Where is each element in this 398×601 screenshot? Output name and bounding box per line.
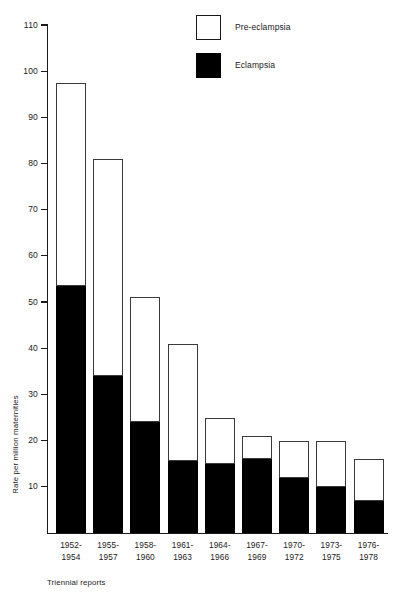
stacked-bar-chart: Pre-eclampsia Eclampsia 1020304050607080… [0, 0, 398, 601]
bar-segment-pre-eclampsia-1964-1966 [205, 418, 235, 464]
bar-segment-eclampsia-1961-1963 [168, 461, 198, 533]
bar-segment-pre-eclampsia-1961-1963 [168, 344, 198, 462]
legend-label-eclampsia: Eclampsia [235, 60, 275, 70]
x-axis-title: Triennial reports [47, 578, 106, 587]
bar-1958-1960 [130, 297, 160, 533]
y-axis-tick-30 [41, 394, 47, 395]
filled-square-swatch-icon [196, 53, 221, 78]
bar-1976-1978 [354, 459, 384, 533]
x-axis-label-1976-1978: 1976-1978 [346, 540, 392, 563]
y-axis-tick-label-50: 50 [4, 298, 38, 307]
y-axis-tick-60 [41, 255, 47, 256]
bar-1961-1963 [168, 344, 198, 533]
bar-segment-pre-eclampsia-1958-1960 [130, 297, 160, 422]
y-axis-tick-label-30: 30 [4, 390, 38, 399]
x-axis-label-line-2: 1978 [346, 552, 392, 564]
bar-1967-1969 [242, 436, 272, 533]
y-axis-tick-label-20: 20 [4, 436, 38, 445]
legend-label-pre-eclampsia: Pre-eclampsia [235, 22, 291, 32]
y-axis-tick-50 [41, 301, 47, 302]
open-square-swatch-icon [196, 15, 221, 40]
x-axis-label-line-1: 1976- [346, 540, 392, 552]
y-axis-tick-20 [41, 440, 47, 441]
legend-item-eclampsia: Eclampsia [196, 52, 386, 78]
y-axis-line [47, 24, 48, 534]
bar-segment-pre-eclampsia-1970-1972 [279, 441, 309, 478]
bar-1973-1975 [316, 441, 346, 533]
bar-1952-1954 [56, 83, 86, 533]
y-axis-tick-100 [41, 71, 47, 72]
bar-1964-1966 [205, 418, 235, 533]
bar-segment-pre-eclampsia-1973-1975 [316, 441, 346, 487]
bar-segment-pre-eclampsia-1955-1957 [93, 159, 123, 376]
y-axis-tick-label-60: 60 [4, 251, 38, 260]
bar-1970-1972 [279, 441, 309, 533]
chart-legend: Pre-eclampsia Eclampsia [196, 14, 386, 90]
bar-segment-eclampsia-1955-1957 [93, 376, 123, 533]
bar-segment-eclampsia-1967-1969 [242, 459, 272, 533]
bar-segment-eclampsia-1952-1954 [56, 286, 86, 533]
y-axis-tick-label-80: 80 [4, 159, 38, 168]
y-axis-tick-70 [41, 209, 47, 210]
bar-segment-pre-eclampsia-1952-1954 [56, 83, 86, 286]
y-axis-title: Rate per million maternities [11, 370, 20, 520]
y-axis-tick-10 [41, 486, 47, 487]
y-axis-tick-40 [41, 348, 47, 349]
legend-item-pre-eclampsia: Pre-eclampsia [196, 14, 386, 40]
y-axis-tick-label-10: 10 [4, 482, 38, 491]
y-axis-tick-label-70: 70 [4, 205, 38, 214]
bar-segment-pre-eclampsia-1967-1969 [242, 436, 272, 459]
y-axis-tick-90 [41, 117, 47, 118]
bar-segment-eclampsia-1970-1972 [279, 478, 309, 533]
bar-segment-eclampsia-1976-1978 [354, 501, 384, 533]
bar-segment-eclampsia-1973-1975 [316, 487, 346, 533]
y-axis-tick-label-110: 110 [4, 21, 38, 30]
y-axis-tick-label-100: 100 [4, 67, 38, 76]
y-axis-tick-80 [41, 163, 47, 164]
bar-segment-pre-eclampsia-1976-1978 [354, 459, 384, 501]
y-axis-tick-label-40: 40 [4, 344, 38, 353]
y-axis-tick-110 [41, 24, 47, 25]
bar-1955-1957 [93, 159, 123, 533]
bar-segment-eclampsia-1958-1960 [130, 422, 160, 533]
y-axis-tick-label-90: 90 [4, 113, 38, 122]
bar-segment-eclampsia-1964-1966 [205, 464, 235, 533]
